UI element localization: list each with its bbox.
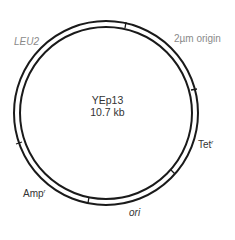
label-amp-resistance: Ampr: [23, 185, 46, 200]
boundary-tick-2micron-tet: [191, 89, 197, 90]
label-amp-sup: r: [44, 188, 46, 194]
label-amp-text: Amp: [23, 188, 44, 199]
label-2micron-origin: 2µm origin: [174, 33, 221, 45]
label-ori: ori: [129, 207, 140, 219]
label-tet-sup: r: [211, 139, 213, 145]
label-leu2: LEU2: [14, 36, 39, 48]
boundary-tick-tet-ori: [171, 170, 175, 174]
label-tet-resistance: Tetr: [198, 136, 213, 151]
label-tet-text: Tet: [198, 139, 211, 150]
plasmid-center-label: YEp13 10.7 kb: [80, 94, 135, 118]
plasmid-size: 10.7 kb: [80, 106, 135, 118]
plasmid-name: YEp13: [80, 94, 135, 106]
